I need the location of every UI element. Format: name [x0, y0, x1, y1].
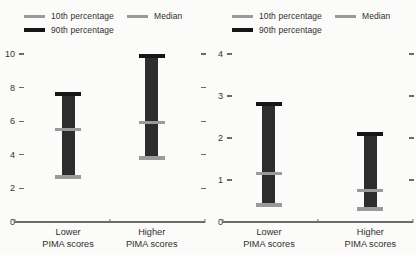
x-axis-tick	[222, 219, 223, 223]
legend-item-90th: 90th percentage	[232, 25, 322, 35]
chart-panel-left: 10th percentage Median 90th percentage 0…	[0, 0, 208, 255]
figure: 10th percentage Median 90th percentage 0…	[0, 0, 416, 255]
category-label-line2: PIMA scores	[106, 239, 198, 251]
legend-item-10th: 10th percentage	[24, 11, 114, 21]
percentile-90-swatch-icon	[232, 28, 253, 32]
legend-label-10th: 10th percentage	[259, 11, 322, 21]
category-label: HigherPIMA scores	[106, 227, 198, 250]
x-axis-tick	[204, 219, 205, 223]
percentile-10-swatch-icon	[24, 15, 45, 18]
percentile-90-cap	[357, 132, 383, 136]
legend-label-10th: 10th percentage	[51, 11, 114, 21]
x-axis-tick	[412, 219, 413, 223]
category-label: HigherPIMA scores	[324, 227, 416, 250]
x-axis-tick	[317, 219, 318, 223]
legend-label-90th: 90th percentage	[259, 25, 322, 35]
percentile-10-swatch-icon	[232, 15, 253, 18]
legend-label-90th: 90th percentage	[51, 25, 114, 35]
y-tick-right	[201, 188, 206, 189]
category-label-line1: Higher	[324, 227, 416, 239]
x-axis-tick	[14, 219, 15, 223]
bar-body	[145, 56, 158, 158]
median-line	[139, 121, 165, 124]
y-tick-right	[201, 53, 206, 54]
y-tick-label: 2	[208, 133, 223, 143]
legend-item-median: Median	[335, 11, 390, 21]
y-tick-right	[201, 154, 206, 155]
y-tick-label: 10	[0, 49, 15, 59]
median-line	[357, 189, 383, 192]
x-axis-tick	[109, 219, 110, 223]
legend-label-median: Median	[154, 11, 182, 21]
plot-area: 0246810LowerPIMA scoresHigherPIMA scores	[20, 54, 198, 222]
y-tick-label: 4	[208, 49, 223, 59]
legend-row: 90th percentage	[24, 23, 182, 37]
median-line	[256, 172, 282, 175]
category-label-line2: PIMA scores	[22, 239, 114, 251]
chart-panel-right: 10th percentage Median 90th percentage 0…	[208, 0, 416, 255]
legend-row: 10th percentage Median	[24, 9, 182, 23]
y-tick-right	[409, 179, 414, 180]
percentile-90-swatch-icon	[24, 28, 45, 32]
category-label: LowerPIMA scores	[223, 227, 315, 250]
y-tick-right	[409, 53, 414, 54]
percentile-10-cap	[256, 203, 282, 207]
category-label-line2: PIMA scores	[324, 239, 416, 251]
plot-area: 01234LowerPIMA scoresHigherPIMA scores	[228, 54, 406, 222]
legend: 10th percentage Median 90th percentage	[232, 9, 390, 37]
category-label-line1: Lower	[22, 227, 114, 239]
category-label-line1: Lower	[223, 227, 315, 239]
y-tick-label: 8	[0, 83, 15, 93]
category-label: LowerPIMA scores	[22, 227, 114, 250]
x-axis	[223, 221, 413, 222]
median-line	[55, 128, 81, 131]
legend-row: 10th percentage Median	[232, 9, 390, 23]
category-label-line1: Higher	[106, 227, 198, 239]
y-tick-label: 4	[0, 150, 15, 160]
percentile-10-cap	[357, 207, 383, 211]
x-axis	[15, 221, 205, 222]
y-tick	[227, 53, 232, 54]
percentile-90-cap	[139, 54, 165, 58]
y-tick	[227, 95, 232, 96]
median-swatch-icon	[127, 15, 148, 18]
legend-row: 90th percentage	[232, 23, 390, 37]
legend-item-90th: 90th percentage	[24, 25, 114, 35]
y-tick-label: 0	[208, 217, 223, 227]
y-tick	[19, 154, 24, 155]
y-tick	[19, 121, 24, 122]
y-tick-label: 1	[208, 175, 223, 185]
bar-body	[262, 104, 275, 205]
percentile-10-cap	[55, 175, 81, 179]
percentile-90-cap	[256, 102, 282, 106]
y-tick	[227, 179, 232, 180]
legend-label-median: Median	[362, 11, 390, 21]
y-tick-label: 3	[208, 91, 223, 101]
median-swatch-icon	[335, 15, 356, 18]
legend-item-10th: 10th percentage	[232, 11, 322, 21]
y-tick-right	[409, 137, 414, 138]
percentile-90-cap	[55, 92, 81, 96]
y-tick-right	[409, 95, 414, 96]
y-tick-label: 2	[0, 183, 15, 193]
y-tick	[227, 137, 232, 138]
bar-body	[62, 94, 75, 176]
y-tick-label: 6	[0, 116, 15, 126]
y-tick	[19, 188, 24, 189]
y-tick-label: 0	[0, 217, 15, 227]
legend: 10th percentage Median 90th percentage	[24, 9, 182, 37]
percentile-10-cap	[139, 156, 165, 160]
category-label-line2: PIMA scores	[223, 239, 315, 251]
legend-item-median: Median	[127, 11, 182, 21]
y-tick	[19, 87, 24, 88]
y-tick	[19, 53, 24, 54]
bar-body	[364, 134, 377, 210]
y-tick-right	[201, 121, 206, 122]
y-tick-right	[201, 87, 206, 88]
